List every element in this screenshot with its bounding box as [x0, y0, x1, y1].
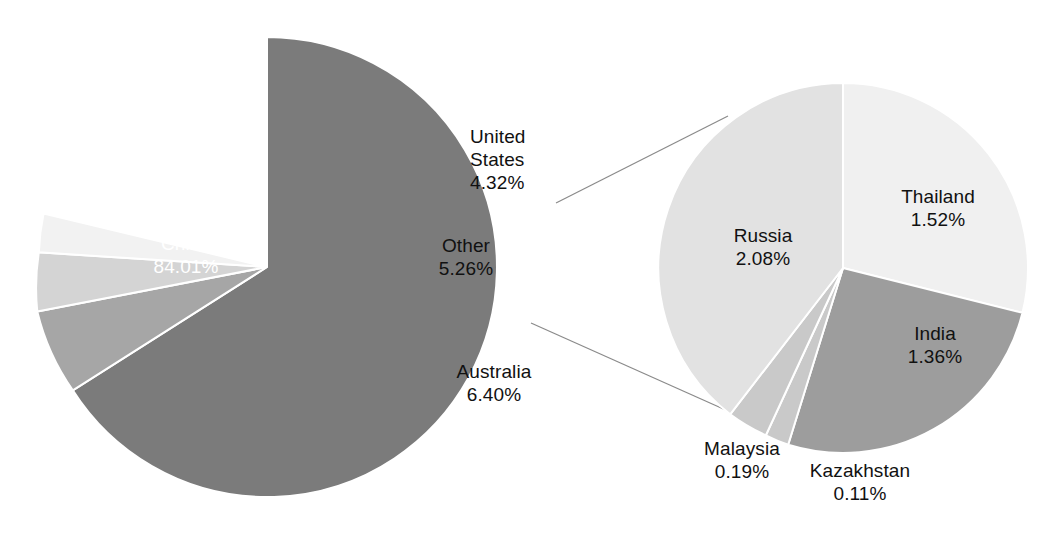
label-united-states-name-line1: United	[470, 125, 590, 148]
label-malaysia-name: Malaysia	[680, 437, 804, 460]
label-other-name: Other	[411, 234, 521, 257]
label-russia-name: Russia	[700, 224, 826, 247]
label-russia: Russia 2.08%	[700, 224, 826, 270]
label-other: Other 5.26%	[411, 234, 521, 280]
label-united-states-value: 4.32%	[470, 171, 590, 194]
label-russia-value: 2.08%	[700, 247, 826, 270]
label-kazakhstan-value: 0.11%	[782, 482, 938, 505]
label-china-value: 84.01%	[126, 255, 246, 278]
label-india-value: 1.36%	[875, 345, 995, 368]
label-india-name: India	[875, 322, 995, 345]
pie-of-pie-chart: China 84.01% United States 4.32% Other 5…	[0, 0, 1064, 541]
label-united-states: United States 4.32%	[470, 125, 590, 194]
label-australia-value: 6.40%	[429, 383, 559, 406]
label-thailand-name: Thailand	[873, 185, 1003, 208]
label-australia-name: Australia	[429, 360, 559, 383]
label-china-name: China	[126, 232, 246, 255]
label-other-value: 5.26%	[411, 257, 521, 280]
label-thailand-value: 1.52%	[873, 208, 1003, 231]
label-thailand: Thailand 1.52%	[873, 185, 1003, 231]
label-kazakhstan: Kazakhstan 0.11%	[782, 459, 938, 505]
label-united-states-name-line2: States	[470, 148, 590, 171]
label-kazakhstan-name: Kazakhstan	[782, 459, 938, 482]
label-china: China 84.01%	[126, 232, 246, 278]
label-australia: Australia 6.40%	[429, 360, 559, 406]
label-india: India 1.36%	[875, 322, 995, 368]
